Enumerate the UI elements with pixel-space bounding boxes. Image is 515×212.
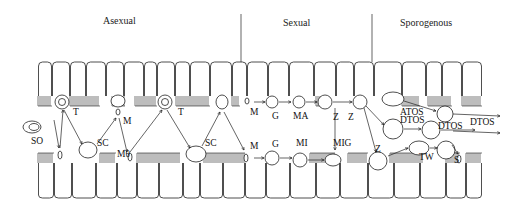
stage-label-dtos: DTOS	[400, 115, 425, 125]
sporocyst	[437, 141, 455, 159]
epithelial-cell-top	[71, 62, 86, 96]
microvilli	[176, 96, 208, 106]
merozoite	[116, 109, 120, 115]
epithelial-cell-top	[355, 62, 374, 96]
zygote	[353, 95, 367, 109]
zygote	[318, 95, 332, 109]
epithelial-cell-bottom	[138, 163, 159, 198]
microvilli	[70, 96, 98, 106]
epithelial-cell-top	[427, 62, 442, 96]
trophozoite-nucleus	[162, 99, 169, 106]
zygote-bottom	[369, 152, 387, 170]
stage-label-t: T	[178, 107, 184, 117]
epithelial-cell-bottom	[467, 163, 482, 198]
arrow-shaft	[130, 110, 162, 152]
epithelial-cell-bottom	[97, 163, 117, 198]
arrow-shaft	[54, 120, 59, 148]
microvilli	[466, 153, 480, 163]
epithelial-cell-top	[107, 62, 124, 96]
epithelial-cell-top	[158, 62, 175, 96]
epithelial-cell-top	[315, 62, 336, 96]
oocyst-top	[382, 92, 404, 106]
microvilli	[232, 96, 238, 106]
stage-label-mig: MIG	[333, 138, 352, 148]
merozoite	[244, 154, 248, 162]
epithelial-cell-bottom	[73, 163, 96, 198]
epithelial-cell-top	[145, 62, 157, 96]
gamont	[266, 96, 278, 108]
microgamete-release	[325, 154, 341, 166]
epithelial-cell-top	[125, 62, 144, 96]
epithelial-cell-bottom	[291, 163, 316, 198]
arrow-shaft	[366, 106, 384, 125]
stage-label-m: Mθ	[117, 149, 130, 159]
epithelial-cell-top	[337, 62, 354, 96]
epithelial-cell-top	[463, 62, 482, 96]
stage-label-sc: SC	[97, 138, 109, 148]
epithelial-cell-top	[176, 62, 190, 96]
phase-label-sporogenous: Sporogenous	[400, 17, 452, 28]
epithelial-cell-bottom	[421, 163, 446, 198]
phase-label-sexual: Sexual	[283, 17, 310, 28]
stage-label-s: S	[454, 155, 459, 165]
trophozoite-nucleus	[59, 99, 66, 106]
epithelial-cell-bottom	[447, 163, 466, 198]
epithelial-cell-bottom	[317, 163, 340, 198]
epithelial-cell-bottom	[267, 163, 290, 198]
schizont	[79, 142, 97, 158]
epithelial-cell-bottom	[395, 163, 420, 198]
epithelial-cell-top	[248, 62, 268, 96]
microgamont	[293, 153, 307, 167]
epithelial-cell-bottom	[224, 163, 245, 198]
schizont-top	[216, 95, 228, 109]
epithelial-cell-top	[211, 62, 232, 96]
stage-label-mi: MI	[296, 138, 308, 148]
epithelial-cell-bottom	[160, 163, 183, 198]
epithelial-cell-bottom	[246, 163, 266, 198]
microvilli	[348, 153, 366, 163]
microvilli	[204, 153, 244, 163]
macrogamont	[293, 96, 305, 108]
sporozoite	[58, 151, 62, 159]
epithelial-cell-top	[403, 62, 426, 96]
arrow-shaft	[60, 110, 63, 148]
stage-label-z: Z	[375, 144, 381, 154]
diagram-canvas: SOTMSCMθTSCMMGMAZZGMIMIGZATOSDTOSDTOSDTO…	[0, 0, 515, 212]
phase-label-asexual: Asexual	[103, 15, 136, 26]
schizont	[186, 146, 206, 162]
epithelial-cell-top	[53, 62, 70, 96]
stage-label-g: G	[272, 111, 279, 121]
epithelial-cell-top	[443, 62, 462, 96]
gamont-bottom	[265, 151, 279, 165]
stage-label-so: SO	[31, 136, 43, 146]
epithelial-cell-top	[269, 62, 289, 96]
stage-label-t: T	[73, 107, 79, 117]
epithelial-cell-bottom	[184, 163, 200, 198]
arrow-shaft	[453, 131, 500, 133]
stage-label-m: M	[250, 107, 259, 117]
schizont-top	[111, 95, 125, 107]
stage-label-z: Z	[333, 112, 339, 122]
epithelial-cell-top	[39, 62, 52, 96]
stage-label-m: M	[250, 141, 259, 151]
microvilli	[137, 153, 179, 163]
epithelial-cell-top	[191, 62, 210, 96]
epithelial-cell-top	[375, 62, 402, 96]
sporocyst-inner	[29, 124, 39, 131]
life-cycle-diagram: SOTMSCMθTSCMMGMAZZGMIMIGZATOSDTOSDTOSDTO…	[0, 0, 515, 212]
microvilli	[428, 96, 450, 106]
stage-label-dtos: DTOS	[438, 121, 463, 131]
atos	[437, 106, 453, 122]
stage-label-ma: MA	[293, 111, 308, 121]
epithelial-cell-bottom	[118, 163, 137, 198]
microvilli	[38, 153, 52, 163]
stage-label-m: M	[123, 116, 132, 126]
stage-label-g: G	[272, 139, 279, 149]
microvilli	[462, 96, 480, 106]
merozoite	[245, 98, 249, 104]
epithelial-cell-top	[87, 62, 106, 96]
epithelial-cell-bottom	[55, 163, 72, 198]
epithelial-cell-bottom	[341, 163, 368, 198]
epithelial-cell-bottom	[201, 163, 223, 198]
epithelial-cell-bottom	[39, 163, 54, 198]
